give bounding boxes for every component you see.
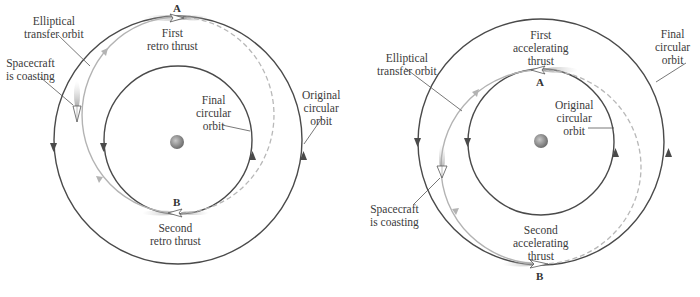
leader-line — [413, 178, 440, 205]
label-line: First — [513, 29, 569, 42]
arrowhead-icon — [100, 143, 107, 152]
label-line: orbit — [302, 115, 340, 128]
label-line: circular — [196, 107, 231, 120]
elliptical-transfer-orbit-label: Elliptical transfer orbit — [24, 15, 84, 41]
spacecraft-coasting-label: Spacecraft is coasting — [370, 203, 419, 229]
label-line: orbit — [655, 54, 690, 67]
label-line: Spacecraft — [370, 203, 419, 216]
point-b-label: B — [536, 270, 543, 282]
label-line: Second — [513, 224, 569, 237]
final-circular-orbit-label: Final circular orbit — [196, 94, 231, 133]
elliptical-transfer-orbit-label: Elliptical transfer orbit — [377, 52, 437, 78]
label-line: thrust — [513, 250, 569, 263]
original-circular-orbit-label: Original circular orbit — [555, 99, 593, 138]
planet-icon — [534, 134, 548, 148]
final-circular-orbit-label: Final circular orbit — [655, 28, 690, 67]
original-circular-orbit-label: Original circular orbit — [302, 89, 340, 128]
arrowhead-icon — [50, 143, 57, 152]
label-line: Original — [302, 89, 340, 102]
label-line: First — [147, 27, 198, 40]
label-line: is coasting — [370, 216, 419, 229]
second-retro-thrust-label: Second retro thrust — [150, 222, 201, 248]
orbit-diagrams — [0, 0, 700, 297]
label-line: accelerating — [513, 237, 569, 250]
label-line: orbit — [196, 120, 231, 133]
label-line: accelerating — [513, 42, 569, 55]
point-b-label: B — [173, 196, 180, 208]
first-retro-thrust-label: First retro thrust — [147, 27, 198, 53]
arrowhead-icon — [464, 138, 471, 147]
point-a-label: A — [173, 2, 181, 14]
label-line: is coasting — [6, 70, 55, 83]
label-line: Original — [555, 99, 593, 112]
arrowhead-icon — [665, 148, 672, 157]
label-line: thrust — [513, 55, 569, 68]
label-line: orbit — [555, 125, 593, 138]
label-line: Final — [655, 28, 690, 41]
label-line: Elliptical — [24, 15, 84, 28]
point-a-label: A — [536, 76, 544, 88]
arrowhead-icon — [96, 176, 103, 183]
second-accelerating-thrust-label: Second accelerating thrust — [513, 224, 569, 263]
label-line: circular — [555, 112, 593, 125]
label-line: transfer orbit — [377, 65, 437, 78]
planet-icon — [170, 135, 184, 149]
label-line: transfer orbit — [24, 28, 84, 41]
spacecraft-icon — [73, 81, 81, 122]
label-line: Second — [150, 222, 201, 235]
spacecraft-coasting-label: Spacecraft is coasting — [6, 57, 55, 83]
label-line: Elliptical — [377, 52, 437, 65]
spacecraft-icon — [437, 144, 447, 178]
arrowhead-icon — [414, 138, 421, 147]
first-accelerating-thrust-label: First accelerating thrust — [513, 29, 569, 68]
label-line: circular — [655, 41, 690, 54]
label-line: Final — [196, 94, 231, 107]
label-line: circular — [302, 102, 340, 115]
label-line: Spacecraft — [6, 57, 55, 70]
label-line: retro thrust — [147, 40, 198, 53]
label-line: retro thrust — [150, 235, 201, 248]
